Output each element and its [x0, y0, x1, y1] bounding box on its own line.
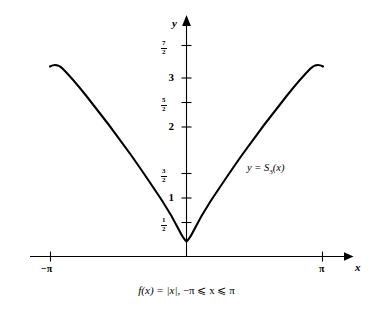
y-tick-label-three-halves: 3 2: [161, 167, 167, 184]
caption-function: f(x) = |x|,: [138, 284, 180, 296]
curve-label-s3: y = S3(x): [247, 163, 284, 176]
x-tick-label-neg-pi: −π: [41, 264, 52, 274]
y-axis-label: y: [172, 18, 177, 29]
fourier-series-figure: y x 7 2 3 5 2 2 3 2 1 1 2 −π π y = S3(x): [0, 0, 373, 314]
y-axis-arrowhead: [182, 15, 191, 26]
y-tick-label-seven-halves: 7 2: [161, 39, 167, 56]
y-tick-label-five-halves: 5 2: [161, 96, 167, 113]
fraction-one-half: 1 2: [161, 217, 167, 233]
x-axis-label: x: [355, 262, 361, 273]
fraction-three-halves: 3 2: [161, 168, 167, 184]
curve-label-suffix: (x): [273, 162, 285, 173]
y-tick-label-1: 1: [160, 192, 174, 203]
x-tick-label-pi: π: [319, 264, 324, 274]
x-axis-arrowhead: [344, 252, 354, 260]
curve-label-prefix: y = S: [247, 162, 269, 173]
fraction-five-halves: 5 2: [161, 97, 167, 113]
y-tick-label-2: 2: [160, 121, 174, 132]
caption-domain: −π ⩽ x ⩽ π: [183, 284, 235, 296]
figure-caption: f(x) = |x|, −π ⩽ x ⩽ π: [0, 285, 373, 296]
y-tick-label-half: 1 2: [161, 216, 167, 233]
fraction-seven-halves: 7 2: [161, 40, 167, 56]
y-tick-label-3: 3: [160, 72, 174, 83]
plot-canvas: [0, 0, 373, 314]
